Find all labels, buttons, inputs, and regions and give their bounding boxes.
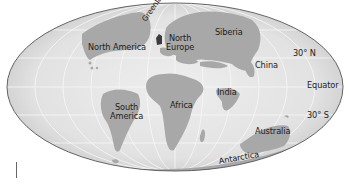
label-lat-30n: 30° N — [293, 49, 316, 58]
label-south-america: South America — [110, 103, 143, 121]
label-africa: Africa — [170, 101, 193, 110]
label-india: India — [217, 88, 237, 97]
label-china: China — [255, 61, 278, 70]
label-north-america: North America — [88, 43, 146, 52]
label-south-america-line2: America — [110, 112, 143, 121]
tick-mark — [16, 162, 17, 178]
label-north-europe: North Europe — [166, 34, 194, 52]
label-north-europe-line2: Europe — [166, 43, 194, 52]
world-map — [0, 0, 349, 184]
label-equator: Equator — [307, 81, 338, 90]
label-australia: Australia — [255, 127, 290, 136]
label-siberia: Siberia — [215, 28, 243, 37]
label-lat-30s: 30° S — [307, 111, 329, 120]
